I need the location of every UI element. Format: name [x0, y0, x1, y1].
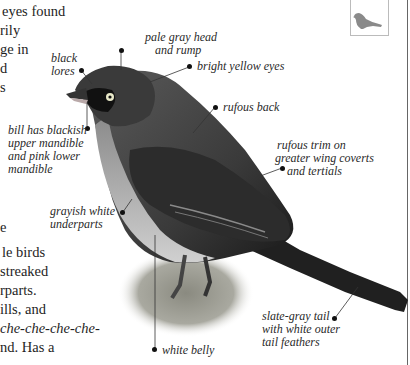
label-bill: bill has blackish upper mandible and pin…: [8, 124, 87, 176]
label-rufous-back: rufous back: [223, 101, 279, 114]
callout-dot: [152, 347, 157, 352]
label-grayish-white-underparts: grayish white underparts: [50, 205, 115, 231]
label-white-belly: white belly: [162, 344, 214, 357]
label-black-lores: black lores: [51, 52, 77, 78]
callout-dot: [119, 48, 124, 53]
callout-dot: [187, 64, 192, 69]
label-rufous-trim: rufous trim on greater wing coverts and …: [277, 139, 374, 178]
label-slate-gray-tail: slate-gray tail with white outer tail fe…: [262, 310, 340, 349]
callout-dot: [79, 68, 84, 73]
callout-dot: [120, 210, 125, 215]
callout-dot: [213, 105, 218, 110]
label-pale-gray-head: pale gray head and rump: [145, 31, 217, 57]
label-bright-yellow-eyes: bright yellow eyes: [197, 60, 284, 73]
